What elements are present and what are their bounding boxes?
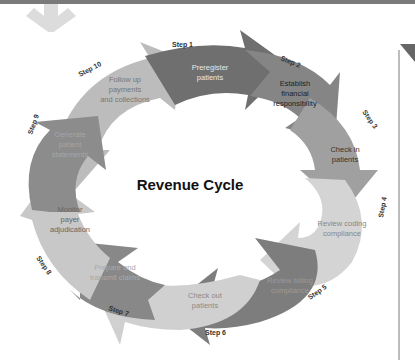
step-10-label: Step 10 — [77, 60, 103, 79]
svg-text:transmit claims: transmit claims — [90, 273, 140, 282]
label-step-7: Prepare and transmit claims — [90, 263, 140, 282]
svg-text:Follow up: Follow up — [109, 75, 141, 84]
label-step-6: Check out patients — [188, 291, 223, 310]
step-6-label: Step 6 — [205, 329, 226, 337]
svg-text:Monitor: Monitor — [57, 205, 83, 214]
svg-text:Review coding: Review coding — [318, 219, 367, 228]
svg-text:Check in: Check in — [330, 145, 359, 154]
svg-text:and collections: and collections — [100, 95, 150, 104]
svg-text:financial: financial — [281, 89, 309, 98]
label-step-3: Check in patients — [330, 145, 359, 164]
svg-text:Check out: Check out — [188, 291, 223, 300]
svg-text:statements: statements — [52, 150, 89, 159]
svg-text:patients: patients — [192, 301, 219, 310]
svg-text:payer: payer — [61, 215, 80, 224]
svg-text:patients: patients — [197, 73, 224, 82]
svg-text:compliance: compliance — [271, 286, 309, 295]
svg-text:compliance: compliance — [323, 229, 361, 238]
step-3-label: Step 3 — [360, 109, 379, 131]
svg-text:patients: patients — [332, 155, 359, 164]
svg-text:responsibility: responsibility — [273, 99, 317, 108]
svg-text:Generate: Generate — [54, 130, 85, 139]
svg-text:patient: patient — [59, 140, 82, 149]
diagram-title: Revenue Cycle — [137, 176, 244, 193]
svg-text:Review billing: Review billing — [267, 276, 313, 285]
step-1-label: Step 1 — [172, 41, 193, 49]
label-step-4: Review coding compliance — [318, 219, 367, 238]
step-9-label: Step 9 — [26, 113, 41, 136]
label-step-5: Review billing compliance — [267, 276, 313, 295]
step-4-label: Step 4 — [377, 196, 389, 218]
svg-text:Establish: Establish — [280, 79, 310, 88]
svg-text:Prepare and: Prepare and — [94, 263, 135, 272]
svg-text:payments: payments — [109, 85, 142, 94]
revenue-cycle-diagram: Revenue Cycle Step 1 Step 2 Step 3 Step … — [0, 0, 415, 364]
svg-text:Preregister: Preregister — [192, 63, 229, 72]
svg-text:adjudication: adjudication — [50, 225, 90, 234]
